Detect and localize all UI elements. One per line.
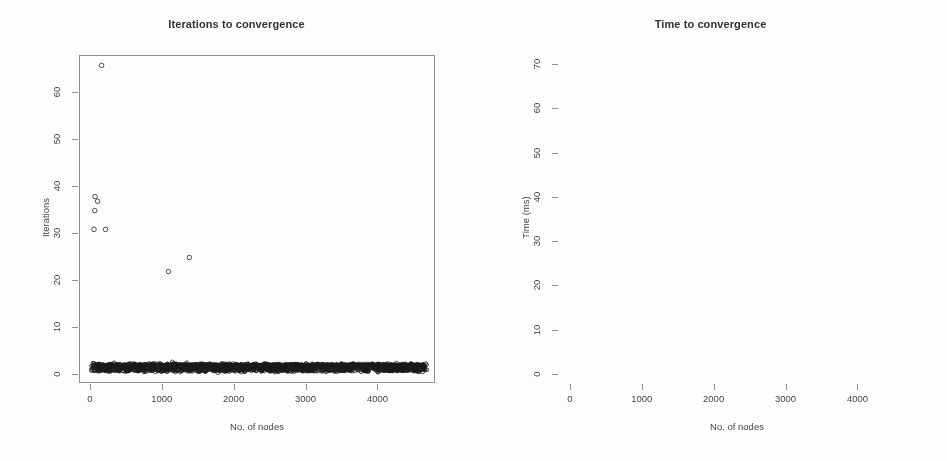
x-tick bbox=[714, 384, 715, 390]
x-tick-label: 2000 bbox=[223, 393, 244, 404]
y-tick-label: 40 bbox=[530, 184, 544, 210]
y-tick-label: 10 bbox=[530, 317, 544, 343]
x-tick bbox=[162, 384, 163, 390]
y-tick-label: 30 bbox=[530, 228, 544, 254]
y-tick-label: 20 bbox=[50, 267, 64, 293]
y-tick bbox=[552, 285, 558, 286]
x-tick bbox=[570, 384, 571, 390]
y-tick bbox=[72, 186, 78, 187]
x-tick bbox=[786, 384, 787, 390]
y-axis-title-iterations: Iterations bbox=[40, 188, 51, 248]
plot-area-iterations bbox=[80, 56, 434, 382]
x-tick-label: 4000 bbox=[367, 393, 388, 404]
x-tick-label: 4000 bbox=[847, 393, 868, 404]
x-tick bbox=[857, 384, 858, 390]
y-tick bbox=[72, 92, 78, 93]
y-tick bbox=[72, 233, 78, 234]
x-tick-label: 2000 bbox=[703, 393, 724, 404]
y-tick-label: 50 bbox=[50, 126, 64, 152]
x-tick-label: 3000 bbox=[295, 393, 316, 404]
x-tick bbox=[306, 384, 307, 390]
y-tick-label: 60 bbox=[50, 79, 64, 105]
scatter-canvas-iterations bbox=[80, 56, 434, 382]
y-tick bbox=[72, 374, 78, 375]
y-tick bbox=[552, 153, 558, 154]
y-tick bbox=[552, 197, 558, 198]
y-tick-label: 0 bbox=[50, 361, 64, 387]
y-tick-label: 50 bbox=[530, 140, 544, 166]
x-axis-title-time: No. of nodes bbox=[710, 421, 764, 432]
x-tick-label: 1000 bbox=[631, 393, 652, 404]
y-tick bbox=[552, 108, 558, 109]
x-tick bbox=[642, 384, 643, 390]
y-tick bbox=[552, 374, 558, 375]
panel-iterations: Iterations to convergence 01000200030004… bbox=[0, 0, 473, 461]
x-tick bbox=[90, 384, 91, 390]
y-tick bbox=[552, 64, 558, 65]
x-tick bbox=[377, 384, 378, 390]
y-axis-title-time: Time (ms) bbox=[520, 188, 531, 248]
y-tick-label: 20 bbox=[530, 272, 544, 298]
y-tick-label: 60 bbox=[530, 95, 544, 121]
panel-title-time: Time to convergence bbox=[474, 18, 947, 30]
x-tick-label: 0 bbox=[567, 393, 572, 404]
x-tick-label: 0 bbox=[87, 393, 92, 404]
plot-frame-iterations bbox=[79, 55, 435, 383]
y-tick-label: 10 bbox=[50, 314, 64, 340]
y-tick-label: 40 bbox=[50, 173, 64, 199]
x-tick-label: 3000 bbox=[775, 393, 796, 404]
y-tick bbox=[552, 241, 558, 242]
x-axis-title-iterations: No. of nodes bbox=[230, 421, 284, 432]
y-tick-label: 30 bbox=[50, 220, 64, 246]
y-tick-label: 0 bbox=[530, 361, 544, 387]
panel-title-iterations: Iterations to convergence bbox=[0, 18, 473, 30]
y-tick-label: 70 bbox=[530, 51, 544, 77]
y-tick bbox=[72, 139, 78, 140]
panel-time: Time to convergence 01000200030004000010… bbox=[474, 0, 947, 461]
x-tick bbox=[234, 384, 235, 390]
y-tick bbox=[72, 280, 78, 281]
y-tick bbox=[72, 327, 78, 328]
y-tick bbox=[552, 330, 558, 331]
x-tick-label: 1000 bbox=[151, 393, 172, 404]
